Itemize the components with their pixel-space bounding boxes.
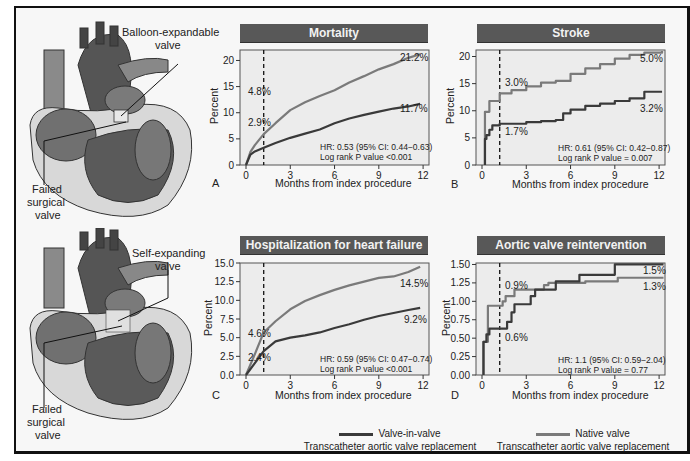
legend-vinv-sub: Transcatheter aortic valve replacement — [300, 440, 480, 453]
legend-swatch-vinv — [339, 433, 373, 436]
value-annotation: 3.2% — [640, 103, 663, 114]
x-axis-label-b: Months from index procedure — [512, 178, 649, 190]
y-tick-label: 0 — [464, 160, 470, 171]
y-tick-label: 15.0 — [215, 258, 235, 269]
y-tick-label: 5 — [464, 132, 470, 143]
legend-vinv-label: Valve-in-valve — [378, 428, 440, 439]
x-tick-label: 12 — [654, 380, 666, 391]
value-annotation: 14.5% — [400, 278, 428, 289]
x-axis-label-a: Months from index procedure — [275, 177, 412, 189]
x-tick-label: 0 — [243, 380, 249, 391]
panel-letter-d: D — [451, 389, 459, 401]
stats-hr-c: HR: 0.59 (95% CI: 0.47−0.74) — [320, 354, 432, 364]
value-annotation: 2.4% — [248, 352, 271, 363]
x-tick-label: 12 — [654, 170, 666, 181]
stats-hr-a: HR: 0.53 (95% CI: 0.44−0.63) — [320, 142, 432, 152]
y-tick-label: 15 — [459, 78, 471, 89]
value-annotation: 21.2% — [400, 52, 428, 63]
y-axis-label-c: Percent — [202, 300, 214, 336]
y-tick-label: 1.50 — [451, 259, 471, 270]
value-annotation: 1.7% — [505, 126, 528, 137]
y-tick-label: 10 — [223, 107, 235, 118]
value-annotation: 1.3% — [643, 281, 666, 292]
legend-native-valve: Native valve Transcatheter aortic valve … — [493, 427, 673, 453]
y-tick-label: 1.25 — [451, 277, 471, 288]
y-tick-label: 0.75 — [451, 314, 471, 325]
y-tick-label: 0.00 — [451, 370, 471, 381]
y-tick-label: 0.0 — [220, 370, 234, 381]
x-axis-label-d: Months from index procedure — [512, 389, 649, 401]
y-tick-label: 7.5 — [220, 314, 234, 325]
value-annotation: 1.5% — [643, 265, 666, 276]
y-tick-label: 0 — [228, 160, 234, 171]
y-tick-label: 10.0 — [215, 295, 235, 306]
y-tick-label: 20 — [459, 51, 471, 62]
stats-p-b: Log rank P value = 0.007 — [558, 153, 653, 163]
y-axis-label-b: Percent — [444, 88, 456, 124]
y-axis-label-d: Percent — [440, 300, 452, 336]
y-tick-label: 2.5 — [220, 351, 234, 362]
stats-hr-b: HR: 0.61 (95% CI: 0.42−0.87) — [558, 143, 670, 153]
legend-valve-in-valve: Valve-in-valve Transcatheter aortic valv… — [300, 427, 480, 453]
y-tick-label: 20 — [223, 55, 235, 66]
value-annotation: 0.9% — [505, 280, 528, 291]
value-annotation: 4.6% — [248, 328, 271, 339]
panel-letter-c: C — [212, 389, 220, 401]
y-tick-label: 15 — [223, 81, 235, 92]
value-annotation: 3.0% — [505, 77, 528, 88]
x-tick-label: 12 — [418, 380, 430, 391]
y-tick-label: 1.00 — [451, 296, 471, 307]
stats-p-a: Log rank P value <0.001 — [320, 152, 412, 162]
value-annotation: 9.2% — [404, 314, 427, 325]
x-tick-label: 12 — [418, 170, 430, 181]
legend-native-label: Native valve — [575, 428, 629, 439]
value-annotation: 4.8% — [248, 86, 271, 97]
legend-native-sub: Transcatheter aortic valve replacement — [493, 440, 673, 453]
panel-letter-b: B — [451, 178, 458, 190]
x-tick-label: 0 — [479, 380, 485, 391]
y-tick-label: 0.25 — [451, 351, 471, 362]
stats-p-d: Log rank P value = 0.77 — [558, 365, 648, 375]
legend-swatch-native — [536, 433, 570, 436]
y-axis-label-a: Percent — [208, 88, 220, 124]
y-tick-label: 0.50 — [451, 333, 471, 344]
value-annotation: 0.6% — [505, 332, 528, 343]
x-tick-label: 0 — [479, 170, 485, 181]
value-annotation: 11.7% — [400, 103, 428, 114]
x-tick-label: 0 — [243, 170, 249, 181]
value-annotation: 2.9% — [248, 117, 271, 128]
y-tick-label: 12.5 — [215, 276, 235, 287]
y-tick-label: 5 — [228, 133, 234, 144]
stats-hr-d: HR: 1.1 (95% CI: 0.59−2.04) — [558, 355, 666, 365]
x-axis-label-c: Months from index procedure — [275, 389, 412, 401]
value-annotation: 5.0% — [640, 53, 663, 64]
y-tick-label: 10 — [459, 105, 471, 116]
y-tick-label: 5.0 — [220, 332, 234, 343]
stats-p-c: Log rank P value <0.001 — [320, 364, 412, 374]
panel-letter-a: A — [212, 177, 219, 189]
